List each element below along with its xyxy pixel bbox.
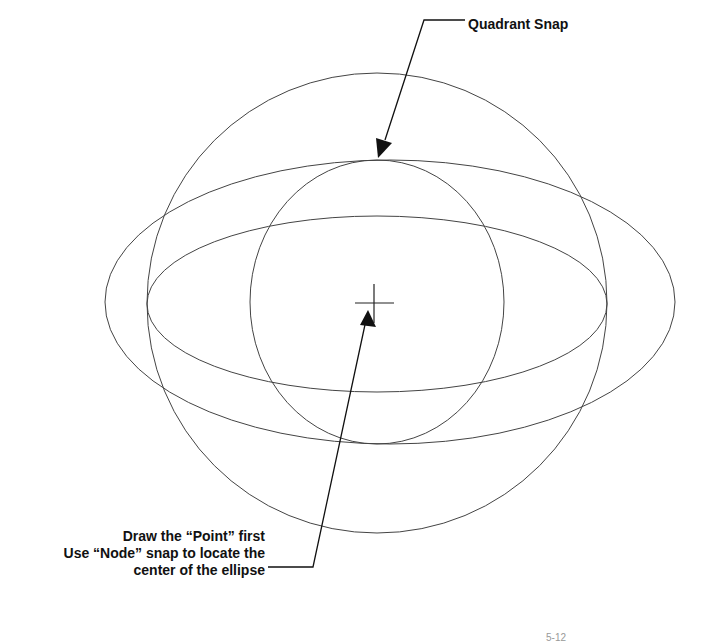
node-snap-label: Draw the “Point” first Use “Node” snap t… xyxy=(64,528,265,579)
small-circle xyxy=(250,160,504,444)
node-leader xyxy=(268,320,366,567)
node-label-line: Draw the “Point” first xyxy=(64,528,265,545)
node-label-line: center of the ellipse xyxy=(64,562,265,579)
node-label-line: Use “Node” snap to locate the xyxy=(64,545,265,562)
page-number: 5-12 xyxy=(546,632,566,643)
inner-ellipse xyxy=(147,216,607,392)
outer-ellipse xyxy=(105,160,675,444)
quadrant-leader xyxy=(385,20,465,140)
arrowhead-icon xyxy=(376,138,392,158)
quadrant-snap-label: Quadrant Snap xyxy=(468,16,568,33)
